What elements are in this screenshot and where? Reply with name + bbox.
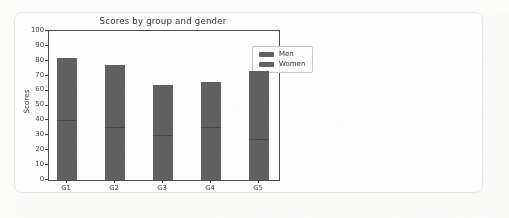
y-tick-label: 80 bbox=[20, 57, 44, 64]
bar-segment-women-G1 bbox=[57, 58, 77, 121]
bar-segment-divider bbox=[153, 135, 173, 136]
bar-segment-divider bbox=[105, 127, 125, 128]
x-tick-label-G2: G2 bbox=[102, 185, 126, 192]
women-swatch-icon bbox=[259, 62, 274, 67]
bar-segment-men-G1 bbox=[57, 120, 77, 180]
y-tick-mark bbox=[45, 119, 48, 120]
bar-segment-women-G5 bbox=[249, 71, 269, 140]
x-tick-label-G4: G4 bbox=[198, 185, 222, 192]
y-tick-mark bbox=[45, 105, 48, 106]
bar-segment-men-G2 bbox=[105, 128, 125, 180]
y-tick-mark bbox=[45, 60, 48, 61]
bar-segment-divider bbox=[201, 127, 221, 128]
y-tick-label: 30 bbox=[20, 131, 44, 138]
chart-card: Scores by group and gender Scores Men Wo… bbox=[14, 12, 483, 193]
bar-segment-men-G4 bbox=[201, 128, 221, 180]
x-tick-mark bbox=[210, 180, 211, 183]
x-tick-label-G1: G1 bbox=[54, 185, 78, 192]
legend-label-men: Men bbox=[279, 51, 294, 58]
y-tick-mark bbox=[45, 30, 48, 31]
y-tick-mark bbox=[45, 149, 48, 150]
bar-segment-men-G5 bbox=[249, 140, 269, 180]
legend-entry-men: Men bbox=[259, 51, 305, 58]
x-tick-mark bbox=[162, 180, 163, 183]
legend-label-women: Women bbox=[279, 61, 305, 68]
x-tick-mark bbox=[114, 180, 115, 183]
y-tick-label: 20 bbox=[20, 146, 44, 153]
legend-entry-women: Women bbox=[259, 61, 305, 68]
y-tick-label: 100 bbox=[20, 27, 44, 34]
bar-segment-women-G2 bbox=[105, 65, 125, 128]
bar-chart: Scores by group and gender Scores Men Wo… bbox=[15, 13, 355, 192]
legend: Men Women bbox=[252, 46, 313, 73]
y-tick-label: 70 bbox=[20, 72, 44, 79]
y-tick-mark bbox=[45, 90, 48, 91]
y-tick-label: 50 bbox=[20, 101, 44, 108]
y-tick-label: 60 bbox=[20, 86, 44, 93]
y-tick-label: 90 bbox=[20, 42, 44, 49]
y-tick-mark bbox=[45, 179, 48, 180]
men-swatch-icon bbox=[259, 52, 274, 57]
x-tick-label-G5: G5 bbox=[246, 185, 270, 192]
y-tick-label: 0 bbox=[20, 176, 44, 183]
x-tick-mark bbox=[66, 180, 67, 183]
y-tick-mark bbox=[45, 164, 48, 165]
bar-segment-women-G3 bbox=[153, 85, 173, 136]
y-tick-mark bbox=[45, 45, 48, 46]
x-tick-mark bbox=[258, 180, 259, 183]
bar-segment-divider bbox=[57, 120, 77, 121]
y-tick-label: 40 bbox=[20, 116, 44, 123]
bar-segment-divider bbox=[249, 139, 269, 140]
y-tick-mark bbox=[45, 134, 48, 135]
chart-title: Scores by group and gender bbox=[48, 16, 278, 26]
plot-area: Men Women bbox=[48, 30, 280, 181]
x-tick-label-G3: G3 bbox=[150, 185, 174, 192]
bar-segment-women-G4 bbox=[201, 82, 221, 128]
y-tick-mark bbox=[45, 75, 48, 76]
bar-segment-men-G3 bbox=[153, 135, 173, 180]
y-tick-label: 10 bbox=[20, 161, 44, 168]
